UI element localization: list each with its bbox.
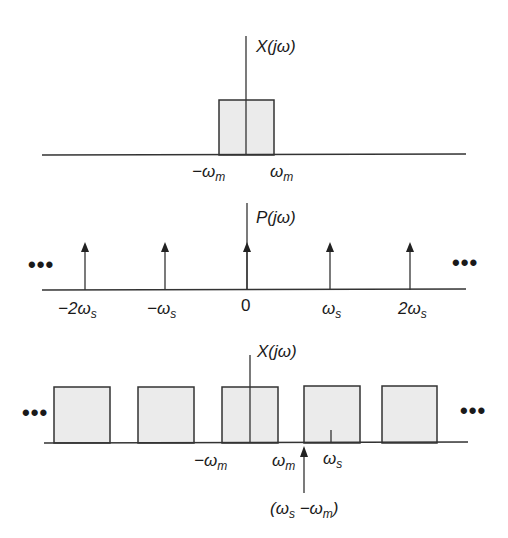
ellipsis-right: ••• — [460, 400, 486, 422]
tick-label-omega-s: ωs — [323, 450, 342, 467]
tick-label-neg-omega-m: −ωm — [194, 452, 227, 469]
spectrum-replica-rect — [304, 386, 360, 443]
sampling-diagram — [0, 0, 508, 538]
tick-label-2-omega-s: 2ωs — [398, 300, 427, 317]
spectrum-replica-rect — [138, 387, 194, 443]
spectrum-replica-rect — [54, 387, 110, 443]
alias-boundary-annotation: (ωs −ωm) — [270, 500, 338, 517]
tick-label-omega-m: ωm — [270, 163, 293, 180]
impulse-arrow-icon — [81, 242, 89, 290]
tick-label-neg-omega-s: −ωs — [147, 300, 176, 317]
bottom-frequency-axis — [44, 442, 468, 443]
middle-panel — [42, 203, 466, 290]
impulse-arrow-icon — [406, 242, 414, 290]
impulse-arrow-icon — [243, 242, 251, 290]
ellipsis-right: ••• — [452, 252, 478, 274]
ellipsis-left: ••• — [28, 254, 54, 276]
top-frequency-axis — [42, 154, 466, 155]
tick-label-neg-2-omega-s: −2ωs — [58, 300, 97, 317]
top-panel — [42, 36, 466, 155]
bottom-panel — [44, 355, 468, 493]
tick-label-omega-s: ωs — [322, 300, 341, 317]
tick-label-neg-omega-m: −ωm — [192, 163, 225, 180]
tick-label-omega-m: ωm — [272, 452, 295, 469]
tick-label-zero: 0 — [241, 297, 250, 314]
middle-frequency-axis — [42, 289, 466, 290]
ellipsis-left: ••• — [22, 402, 48, 424]
annotation-arrow-icon — [300, 446, 308, 493]
impulse-arrow-icon — [161, 242, 169, 290]
middle-panel-title: P(jω) — [256, 209, 296, 226]
spectrum-replica-rect — [382, 386, 437, 443]
impulse-arrow-icon — [326, 242, 334, 290]
top-panel-title: X(jω) — [256, 38, 296, 55]
bottom-panel-title: X(jω) — [257, 343, 297, 360]
